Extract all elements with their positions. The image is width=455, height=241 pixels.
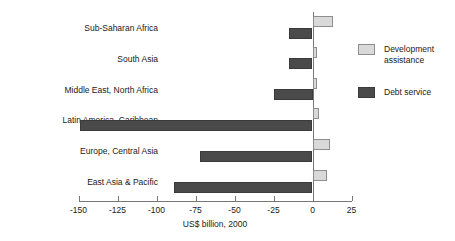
plot-area <box>0 0 455 196</box>
x-axis-title: US$ billion, 2000 <box>183 219 247 229</box>
legend-item: Debt service <box>358 87 431 98</box>
x-axis-tick-label: -50 <box>228 205 240 215</box>
x-axis-tick-label: -125 <box>109 205 126 215</box>
bar-development-assistance <box>313 16 333 27</box>
x-axis-tick-label: 25 <box>347 205 356 215</box>
x-axis-tick <box>235 196 236 201</box>
x-axis-tick-label: -75 <box>189 205 201 215</box>
bar-development-assistance <box>313 47 318 58</box>
x-axis-tick <box>79 196 80 201</box>
x-axis-tick <box>313 196 314 201</box>
bar-debt-service <box>289 28 312 39</box>
bar-development-assistance <box>313 139 330 150</box>
x-axis-tick-label: -25 <box>267 205 279 215</box>
bar-development-assistance <box>313 170 327 181</box>
legend-label: Debt service <box>384 87 431 98</box>
x-axis-line <box>79 201 352 202</box>
legend-label: Development assistance <box>384 44 434 65</box>
bar-development-assistance <box>313 78 318 89</box>
bar-debt-service <box>200 151 312 162</box>
x-axis-tick <box>157 196 158 201</box>
x-axis-tick-label: 0 <box>310 205 315 215</box>
x-axis-tick <box>352 196 353 201</box>
bar-development-assistance <box>313 108 319 119</box>
bar-debt-service <box>289 58 312 69</box>
x-axis-tick-label: -150 <box>70 205 87 215</box>
x-axis-tick <box>274 196 275 201</box>
x-axis-tick <box>196 196 197 201</box>
bar-debt-service <box>274 89 313 100</box>
bar-chart: Sub-Saharan AfricaSouth AsiaMiddle East,… <box>0 0 455 241</box>
bar-debt-service <box>80 120 312 131</box>
bar-debt-service <box>174 182 313 193</box>
x-axis-tick <box>118 196 119 201</box>
legend-item: Development assistance <box>358 44 434 65</box>
legend-swatch-debt <box>358 87 375 98</box>
x-axis-tick-label: -100 <box>148 205 165 215</box>
legend-swatch-aid <box>358 44 375 55</box>
